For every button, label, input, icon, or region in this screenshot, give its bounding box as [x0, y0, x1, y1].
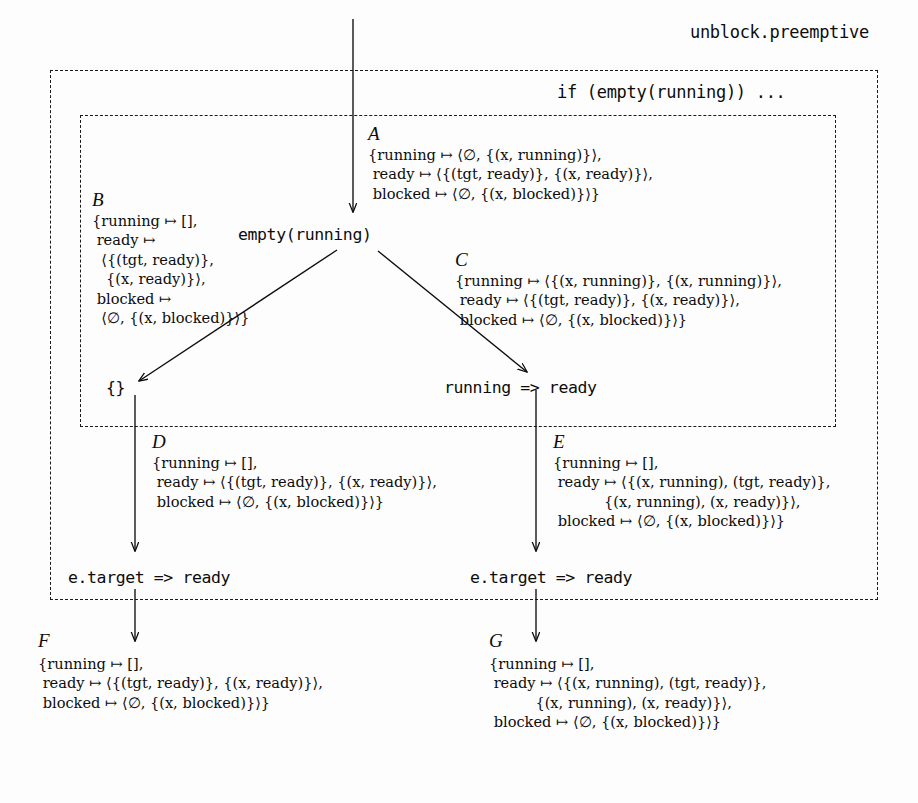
state-D-line-0: {running ↦ [],	[152, 453, 437, 472]
state-B-label: B	[92, 190, 249, 209]
state-B-line-5: ⟨∅, {(x, blocked)}⟩}	[92, 308, 249, 327]
state-C-label: C	[455, 250, 782, 269]
node-left-result[interactable]: {}	[106, 378, 125, 397]
state-F-line-1: ready ↦ ⟨{(tgt, ready)}, {(x, ready)}⟩,	[38, 673, 323, 692]
state-A-line-0: {running ↦ ⟨∅, {(x, running)}⟩,	[368, 145, 653, 164]
state-B-line-1: ready ↦	[92, 230, 249, 249]
state-G-label: G	[489, 631, 766, 650]
state-C-line-2: blocked ↦ ⟨∅, {(x, blocked)}⟩}	[455, 310, 782, 329]
node-right-result[interactable]: running => ready	[444, 378, 597, 397]
state-G-line-1: ready ↦ ⟨{(x, running), (tgt, ready)},	[489, 673, 766, 692]
node-entry-condition[interactable]: empty(running)	[238, 225, 371, 244]
state-B: B {running ↦ [], ready ↦ ⟨{(tgt, ready)}…	[92, 190, 249, 327]
state-F: F {running ↦ [], ready ↦ ⟨{(tgt, ready)}…	[38, 631, 323, 712]
state-E-line-2: {(x, running), (x, ready)}⟩,	[553, 492, 830, 511]
state-A: A {running ↦ ⟨∅, {(x, running)}⟩, ready …	[368, 124, 653, 203]
outer-box-label: unblock.preemptive	[690, 22, 869, 42]
state-E: E {running ↦ [], ready ↦ ⟨{(x, running),…	[553, 432, 830, 531]
state-D-line-1: ready ↦ ⟨{(tgt, ready)}, {(x, ready)}⟩,	[152, 472, 437, 491]
inner-box-label: if (empty(running)) ...	[557, 82, 786, 102]
state-D-line-2: blocked ↦ ⟨∅, {(x, blocked)}⟩}	[152, 492, 437, 511]
node-left-action[interactable]: e.target => ready	[68, 568, 230, 587]
state-G: G {running ↦ [], ready ↦ ⟨{(x, running),…	[489, 631, 766, 732]
state-A-label: A	[368, 124, 653, 143]
state-D-label: D	[152, 432, 437, 451]
state-G-line-0: {running ↦ [],	[489, 654, 766, 673]
state-F-label: F	[38, 631, 323, 650]
state-B-line-2: ⟨{(tgt, ready)},	[92, 250, 249, 269]
state-F-line-0: {running ↦ [],	[38, 654, 323, 673]
state-B-line-0: {running ↦ [],	[92, 211, 249, 230]
state-A-line-1: ready ↦ ⟨{(tgt, ready)}, {(x, ready)}⟩,	[368, 164, 653, 183]
diagram-canvas: unblock.preemptive if (empty(running)) .…	[0, 0, 918, 803]
state-C: C {running ↦ ⟨{(x, running)}, {(x, runni…	[455, 250, 782, 329]
state-E-line-1: ready ↦ ⟨{(x, running), (tgt, ready)},	[553, 472, 830, 491]
state-B-line-3: {(x, ready)}⟩,	[92, 269, 249, 288]
state-D: D {running ↦ [], ready ↦ ⟨{(tgt, ready)}…	[152, 432, 437, 511]
state-C-line-1: ready ↦ ⟨{(tgt, ready)}, {(x, ready)}⟩,	[455, 290, 782, 309]
state-A-line-2: blocked ↦ ⟨∅, {(x, blocked)}⟩}	[368, 184, 653, 203]
state-C-line-0: {running ↦ ⟨{(x, running)}, {(x, running…	[455, 271, 782, 290]
state-E-line-0: {running ↦ [],	[553, 453, 830, 472]
node-right-action[interactable]: e.target => ready	[470, 568, 632, 587]
state-G-line-3: blocked ↦ ⟨∅, {(x, blocked)}⟩}	[489, 712, 766, 731]
state-G-line-2: {(x, running), (x, ready)}⟩,	[489, 693, 766, 712]
state-E-line-3: blocked ↦ ⟨∅, {(x, blocked)}⟩}	[553, 511, 830, 530]
state-E-label: E	[553, 432, 830, 451]
state-F-line-2: blocked ↦ ⟨∅, {(x, blocked)}⟩}	[38, 693, 323, 712]
state-B-line-4: blocked ↦	[92, 289, 249, 308]
